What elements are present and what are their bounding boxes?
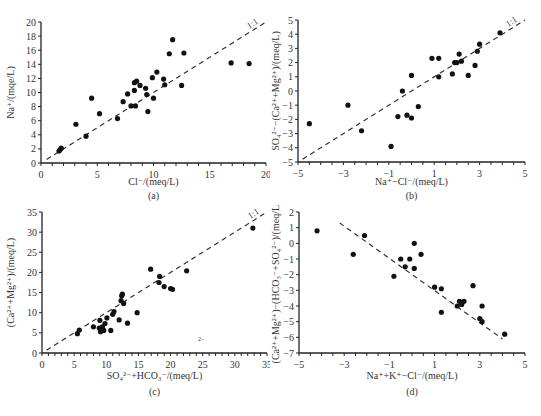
reference-line-label: 1:1 — [246, 206, 261, 221]
y-tick-label: 2 — [31, 143, 36, 154]
x-tick-label: 5 — [523, 359, 528, 370]
y-tick-label: 1 — [289, 222, 294, 233]
y-tick-label: 16 — [26, 45, 36, 56]
reference-line — [340, 223, 503, 339]
scatter-plot-b: −5−3−1135−5−4−3−2−10123451:1Na⁺−Cl⁻/(meq… — [270, 0, 541, 210]
chart-panel-b: −5−3−1135−5−4−3−2−10123451:1Na⁺−Cl⁻/(meq… — [270, 0, 541, 210]
y-tick-label: −4 — [282, 142, 293, 153]
stray-mark: 2− — [198, 336, 205, 342]
data-point — [181, 50, 186, 55]
y-tick-label: 2 — [288, 57, 293, 68]
y-axis-label: Na⁺/(mqe/L) — [5, 66, 17, 118]
data-point — [466, 73, 471, 78]
data-point — [477, 42, 482, 47]
data-point — [157, 274, 162, 279]
x-axis-label: Cl⁻/(meq/L) — [128, 176, 178, 188]
data-point — [229, 60, 234, 65]
data-point — [162, 82, 167, 87]
x-tick-label: 10 — [101, 359, 111, 370]
x-tick-label: −3 — [338, 168, 349, 179]
data-point — [128, 103, 133, 108]
y-tick-label: −3 — [282, 128, 293, 139]
data-point — [314, 228, 319, 233]
data-point — [455, 303, 460, 308]
y-tick-label: 5 — [32, 327, 37, 338]
x-tick-label: −5 — [293, 168, 304, 179]
data-point — [436, 56, 441, 61]
data-point — [132, 88, 137, 93]
x-tick-label: 20 — [261, 169, 270, 180]
data-point — [450, 71, 455, 76]
x-axis-label: SO₄²⁻+HCO₃⁻/(meq/L) — [107, 370, 203, 382]
data-point — [439, 310, 444, 315]
data-point — [145, 109, 150, 114]
x-tick-label: 30 — [230, 359, 240, 370]
data-point — [83, 134, 88, 139]
y-tick-label: 0 — [32, 348, 37, 359]
data-point — [151, 96, 156, 101]
data-point — [162, 284, 167, 289]
x-tick-label: 5 — [72, 359, 77, 370]
x-tick-label: 3 — [477, 359, 482, 370]
data-point — [121, 99, 126, 104]
x-tick-label: −3 — [339, 359, 350, 370]
data-point — [454, 60, 459, 65]
data-point — [400, 88, 405, 93]
data-point — [77, 327, 82, 332]
x-tick-label: 15 — [205, 169, 215, 180]
data-point — [134, 79, 139, 84]
data-point — [418, 252, 423, 257]
y-tick-label: 0 — [31, 158, 36, 169]
data-point — [137, 83, 142, 88]
y-tick-label: 5 — [288, 15, 293, 26]
data-point — [403, 264, 408, 269]
chart-panel-d: −5−3−1135−7−6−5−4−3−2−1012Na⁺+K⁺−Cl⁻/(me… — [270, 205, 541, 400]
x-tick-label: 20 — [166, 359, 176, 370]
y-tick-label: −7 — [283, 348, 294, 359]
x-tick-label: 0 — [40, 359, 45, 370]
data-point — [391, 274, 396, 279]
y-axis-label: SO₄²⁻−(Ca²⁺+Mg²⁺)/(meq/L) — [270, 31, 282, 151]
y-tick-label: 10 — [27, 307, 37, 318]
data-point — [432, 285, 437, 290]
y-tick-label: 4 — [288, 29, 293, 40]
data-point — [170, 37, 175, 42]
data-point — [412, 241, 417, 246]
x-tick-label: 5 — [523, 168, 528, 179]
data-point — [409, 73, 414, 78]
data-point — [470, 283, 475, 288]
data-point — [97, 111, 102, 116]
data-point — [404, 113, 409, 118]
data-point — [409, 115, 414, 120]
reference-line — [303, 20, 525, 159]
y-tick-label: 4 — [31, 129, 36, 140]
data-point — [250, 226, 255, 231]
data-point — [362, 233, 367, 238]
data-point — [91, 324, 96, 329]
data-point — [143, 86, 148, 91]
data-point — [497, 30, 502, 35]
reference-line-label: 1:1 — [245, 16, 260, 31]
data-point — [388, 144, 393, 149]
x-tick-label: 25 — [198, 359, 208, 370]
y-tick-label: 35 — [27, 207, 37, 218]
y-tick-label: −4 — [283, 301, 294, 312]
y-tick-label: 2 — [289, 207, 294, 218]
data-point — [104, 315, 109, 320]
data-point — [398, 256, 403, 261]
y-tick-label: −2 — [283, 269, 294, 280]
chart-panel-c: 05101520253035051015202530351:1SO₄²⁻+HCO… — [0, 205, 270, 400]
panel-label: (a) — [148, 190, 159, 202]
y-tick-label: −1 — [282, 100, 293, 111]
data-point — [121, 301, 126, 306]
panel-label: (b) — [406, 190, 418, 202]
data-point — [416, 104, 421, 109]
data-point — [102, 321, 107, 326]
data-point — [150, 75, 155, 80]
data-point — [179, 83, 184, 88]
y-tick-label: 6 — [31, 115, 36, 126]
y-tick-label: 15 — [27, 287, 37, 298]
y-tick-label: 18 — [26, 31, 36, 42]
data-point — [184, 268, 189, 273]
y-tick-label: 8 — [31, 101, 36, 112]
